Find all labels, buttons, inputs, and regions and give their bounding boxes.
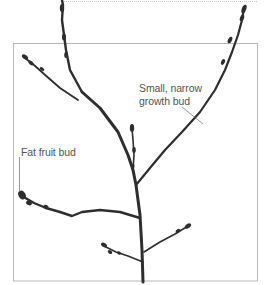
bud-top-left [60, 4, 64, 12]
main-trunk [82, 92, 143, 282]
bud-top-right [240, 4, 247, 14]
label-growth-bud: Small, narrow growth bud [139, 82, 202, 108]
branch-drawing [22, 0, 244, 282]
label-fruit-bud: Fat fruit bud [21, 146, 76, 159]
bud-central-tip [130, 124, 134, 132]
bud-top-right-2 [239, 14, 245, 22]
branch-illustration: Small, narrow growth bud Fat fruit bud [0, 0, 267, 285]
bud-central-2 [132, 147, 136, 153]
lower-left-twig [104, 246, 143, 262]
buds [17, 4, 248, 255]
fruit-bud-branch [22, 196, 140, 218]
upper-left-shoot [62, 0, 82, 92]
bud-upper-left-2 [64, 52, 68, 58]
label-growth-bud-line1: Small, narrow [139, 82, 202, 95]
bud-lower-left-3 [117, 251, 122, 255]
bud-right-2 [220, 59, 226, 66]
bud-central-3 [131, 163, 134, 168]
bud-right-1 [227, 36, 234, 44]
lower-right-twig [144, 226, 188, 252]
bud-upper-left-1 [62, 34, 66, 41]
label-growth-bud-line2: growth bud [139, 95, 202, 108]
